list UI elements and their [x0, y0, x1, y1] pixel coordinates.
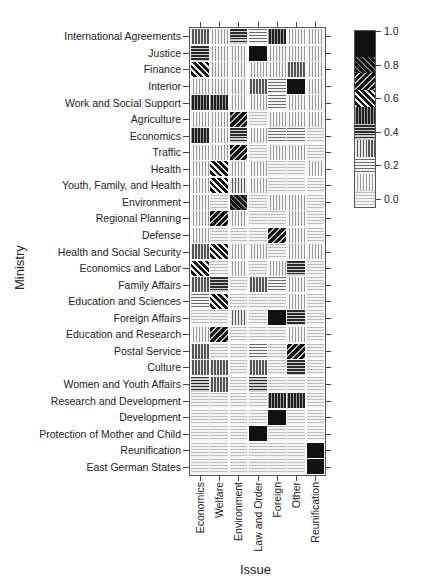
y-tick [183, 119, 189, 120]
y-tick [183, 86, 189, 87]
heatmap-cell [190, 376, 210, 393]
heatmap-cell [286, 293, 306, 310]
y-tick-label: Education and Sciences [68, 295, 181, 307]
x-tick-label: Law and Order [252, 482, 264, 562]
y-tick-label: Women and Youth Affairs [63, 378, 181, 390]
heatmap-cell [267, 409, 287, 426]
x-tick-top [258, 22, 259, 27]
heatmap-cell [209, 376, 229, 393]
heatmap-cell [267, 194, 287, 211]
heatmap-cell [267, 343, 287, 360]
heatmap-cell [190, 425, 210, 442]
heatmap-cell [248, 392, 268, 409]
heatmap-cell [229, 309, 249, 326]
x-tick-top [277, 22, 278, 27]
heatmap-cell [286, 260, 306, 277]
heatmap-cell [267, 177, 287, 194]
heatmap-cell [209, 293, 229, 310]
x-tick-label: Other [290, 482, 302, 562]
x-tick-label: Reunification [309, 482, 321, 562]
heatmap-cell [229, 144, 249, 161]
heatmap-cell [286, 243, 306, 260]
colorbar-segment [355, 56, 375, 73]
heatmap-cell [190, 409, 210, 426]
heatmap-cell [190, 144, 210, 161]
y-tick-label: Family Affairs [118, 279, 181, 291]
heatmap-cell [286, 61, 306, 78]
heatmap-cell [286, 28, 306, 45]
y-tick-label: Culture [147, 361, 181, 373]
colorbar-tick [376, 199, 381, 200]
heatmap-cell [306, 359, 326, 376]
heatmap-cell [306, 442, 326, 459]
heatmap-cell [229, 227, 249, 244]
heatmap-cell [229, 45, 249, 62]
y-tick [183, 36, 189, 37]
y-tick-right [326, 218, 331, 219]
heatmap-cell [248, 293, 268, 310]
heatmap-cell [267, 260, 287, 277]
y-tick [183, 152, 189, 153]
heatmap-cell [209, 243, 229, 260]
heatmap-cell [286, 144, 306, 161]
y-axis-title: Ministry [12, 245, 27, 290]
heatmap-cell [190, 45, 210, 62]
colorbar-tick [376, 65, 381, 66]
heatmap-cell [286, 392, 306, 409]
heatmap-cell [248, 458, 268, 475]
y-tick-right [326, 268, 331, 269]
x-tick-label: Economics [194, 482, 206, 562]
colorbar-tick-label: 0.8 [384, 59, 399, 71]
y-tick [183, 69, 189, 70]
heatmap-cell [306, 28, 326, 45]
colorbar-tick-label: 0.6 [384, 92, 399, 104]
heatmap-cell [286, 78, 306, 95]
heatmap-cell [248, 28, 268, 45]
y-tick-label: Traffic [152, 146, 181, 158]
y-tick-right [326, 136, 331, 137]
y-tick-right [326, 169, 331, 170]
heatmap-cell [190, 61, 210, 78]
heatmap-cell [286, 160, 306, 177]
heatmap-cell [229, 111, 249, 128]
heatmap-cell [267, 160, 287, 177]
heatmap-cell [306, 210, 326, 227]
heatmap-cell [209, 409, 229, 426]
heatmap-cell [286, 309, 306, 326]
heatmap-cell [209, 442, 229, 459]
y-tick-label: Regional Planning [96, 212, 181, 224]
heatmap-cell [286, 326, 306, 343]
y-tick-label: Health and Social Security [58, 246, 181, 258]
x-tick-top [200, 22, 201, 27]
y-tick-right [326, 301, 331, 302]
heatmap-cell [209, 111, 229, 128]
heatmap-cell [229, 343, 249, 360]
heatmap-cell [267, 127, 287, 144]
heatmap-cell [248, 144, 268, 161]
heatmap-cell [190, 392, 210, 409]
heatmap-cell [229, 94, 249, 111]
y-tick [183, 169, 189, 170]
heatmap-cell [209, 78, 229, 95]
colorbar-segment [355, 190, 375, 207]
heatmap-cell [209, 144, 229, 161]
heatmap-cell [229, 243, 249, 260]
colorbar-segment [355, 90, 375, 107]
y-tick [183, 334, 189, 335]
heatmap-cell [229, 326, 249, 343]
heatmap-cell [248, 45, 268, 62]
heatmap-cell [306, 293, 326, 310]
y-tick-right [326, 103, 331, 104]
y-tick [183, 185, 189, 186]
heatmap-cell [209, 326, 229, 343]
heatmap-cell [267, 227, 287, 244]
heatmap-cell [209, 359, 229, 376]
heatmap-cell [286, 194, 306, 211]
heatmap-cell [229, 177, 249, 194]
y-tick [183, 268, 189, 269]
heatmap-cell [229, 442, 249, 459]
heatmap-cell [190, 458, 210, 475]
heatmap-cell [306, 409, 326, 426]
heatmap-cell [209, 28, 229, 45]
heatmap-cell [229, 160, 249, 177]
